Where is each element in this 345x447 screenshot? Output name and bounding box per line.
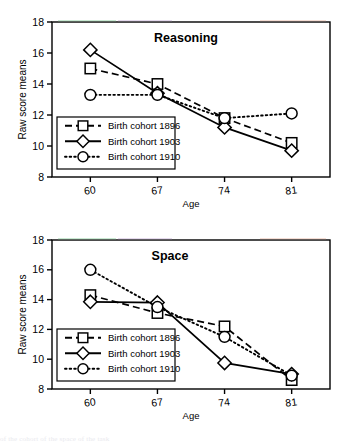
y-tick-label: 10 <box>32 140 44 152</box>
legend-item-3[interactable]: Birth cohort 1910 <box>65 151 180 162</box>
chart-title: Space <box>152 249 189 263</box>
circle-marker <box>78 364 88 374</box>
circle-marker <box>286 108 297 119</box>
square-marker <box>85 63 95 73</box>
y-tick-label: 16 <box>32 263 44 275</box>
circle-marker <box>78 152 88 162</box>
x-tick-label: 67 <box>150 395 163 408</box>
y-tick-label: 8 <box>38 383 44 395</box>
chart-panel-space: 8101214161860677481AgeRaw score meansSpa… <box>0 218 345 430</box>
y-tick-label: 14 <box>32 293 44 305</box>
legend-item-1[interactable]: Birth cohort 1896 <box>65 120 180 131</box>
y-tick-label: 18 <box>32 16 44 28</box>
y-tick-label: 12 <box>32 109 44 121</box>
legend: Birth cohort 1896Birth cohort 1903Birth … <box>57 329 180 381</box>
x-axis-label: Age <box>183 410 200 421</box>
legend: Birth cohort 1896Birth cohort 1903Birth … <box>57 117 180 169</box>
x-tick-label: 74 <box>218 183 231 196</box>
legend-item-2[interactable]: Birth cohort 1903 <box>65 135 180 147</box>
circle-marker <box>219 331 230 342</box>
x-axis-label: Age <box>183 198 200 209</box>
legend-label-3: Birth cohort 1910 <box>108 363 180 374</box>
x-axis: 60677481 <box>83 177 298 197</box>
circle-marker <box>85 264 96 275</box>
legend-item-1[interactable]: Birth cohort 1896 <box>65 332 180 343</box>
legend-label-3: Birth cohort 1910 <box>108 151 180 162</box>
circle-marker <box>219 113 230 124</box>
reasoning-chart-svg: 8101214161860677481AgeRaw score meansRea… <box>0 0 345 218</box>
circle-marker <box>152 302 163 313</box>
square-marker <box>78 333 88 343</box>
chart-title: Reasoning <box>154 31 218 45</box>
circle-marker <box>286 370 297 381</box>
figure-page: 8101214161860677481AgeRaw score meansRea… <box>0 0 345 447</box>
x-axis: 60677481 <box>83 389 298 409</box>
chart-panel-reasoning: 8101214161860677481AgeRaw score meansRea… <box>0 0 345 218</box>
y-tick-label: 16 <box>32 47 44 59</box>
space-chart-svg: 8101214161860677481AgeRaw score meansSpa… <box>0 218 345 430</box>
x-tick-label: 81 <box>285 395 298 408</box>
y-tick-label: 12 <box>32 323 44 335</box>
legend-label-1: Birth cohort 1896 <box>108 332 180 343</box>
y-tick-label: 10 <box>32 353 44 365</box>
y-axis-label: Raw score means <box>17 59 28 139</box>
y-tick-label: 14 <box>32 78 44 90</box>
y-axis: 81012141618 <box>32 234 52 395</box>
y-tick-label: 8 <box>38 171 44 183</box>
x-tick-label: 67 <box>150 183 163 196</box>
circle-marker <box>85 89 96 100</box>
x-tick-label: 74 <box>218 395 231 408</box>
legend-label-2: Birth cohort 1903 <box>108 348 180 359</box>
y-tick-label: 18 <box>32 234 44 246</box>
x-tick-label: 60 <box>83 183 96 196</box>
y-axis: 81012141618 <box>32 16 52 183</box>
square-marker <box>78 121 88 131</box>
square-marker <box>219 321 229 331</box>
legend-item-3[interactable]: Birth cohort 1910 <box>65 363 180 374</box>
x-tick-label: 60 <box>83 395 96 408</box>
y-axis-label: Raw score means <box>17 274 28 354</box>
page-footer-caption: of the cohort of the space of the task <box>0 435 345 447</box>
legend-label-1: Birth cohort 1896 <box>108 120 180 131</box>
circle-marker <box>152 89 163 100</box>
legend-label-2: Birth cohort 1903 <box>108 136 180 147</box>
x-tick-label: 81 <box>285 183 298 196</box>
legend-item-2[interactable]: Birth cohort 1903 <box>65 347 180 359</box>
